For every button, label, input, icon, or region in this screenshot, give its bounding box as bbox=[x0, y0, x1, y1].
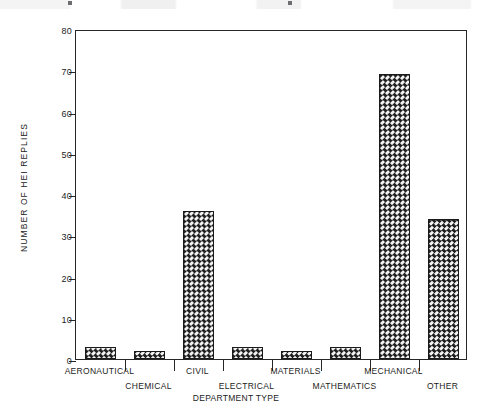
x-tick-label-civil: CIVIL bbox=[186, 366, 209, 376]
y-axis-title: NUMBER OF HEI REPLIES bbox=[17, 118, 31, 258]
y-tick-label: 70 bbox=[62, 67, 72, 77]
bar-chart-figure: NUMBER OF HEI REPLIES 01020304050607080 … bbox=[0, 0, 495, 416]
y-tick-label: 40 bbox=[62, 191, 72, 201]
bar-civil bbox=[183, 211, 214, 360]
y-tick-label: 10 bbox=[62, 315, 72, 325]
plot-area: 01020304050607080 bbox=[75, 30, 467, 360]
x-tick-label-chemical: CHEMICAL bbox=[125, 381, 171, 391]
x-tick-label-aeronautical: AERONAUTICAL bbox=[65, 366, 135, 376]
x-tick-mark bbox=[321, 359, 322, 371]
x-tick-label-other: OTHER bbox=[427, 381, 458, 391]
x-tick-mark bbox=[223, 359, 224, 371]
bar-mathematics bbox=[330, 347, 361, 359]
bar-materials bbox=[281, 351, 312, 359]
y-tick-label: 30 bbox=[62, 232, 72, 242]
x-tick-mark bbox=[174, 359, 175, 371]
x-tick-label-mechanical: MECHANICAL bbox=[364, 366, 423, 376]
bar-chemical bbox=[134, 351, 165, 359]
x-tick-label-electrical: ELECTRICAL bbox=[219, 381, 274, 391]
x-axis-title: DEPARTMENT TYPE bbox=[193, 393, 280, 403]
y-tick-label: 80 bbox=[62, 26, 72, 36]
x-tick-label-mathematics: MATHEMATICS bbox=[313, 381, 377, 391]
bar-electrical bbox=[232, 347, 263, 359]
y-tick-label: 50 bbox=[62, 150, 72, 160]
y-tick-label: 0 bbox=[67, 356, 72, 366]
y-tick-label: 20 bbox=[62, 274, 72, 284]
bar-other bbox=[428, 219, 459, 359]
bar-mechanical bbox=[379, 74, 410, 359]
y-tick-label: 60 bbox=[62, 109, 72, 119]
x-tick-label-materials: MATERIALS bbox=[270, 366, 320, 376]
bar-aeronautical bbox=[85, 347, 116, 359]
